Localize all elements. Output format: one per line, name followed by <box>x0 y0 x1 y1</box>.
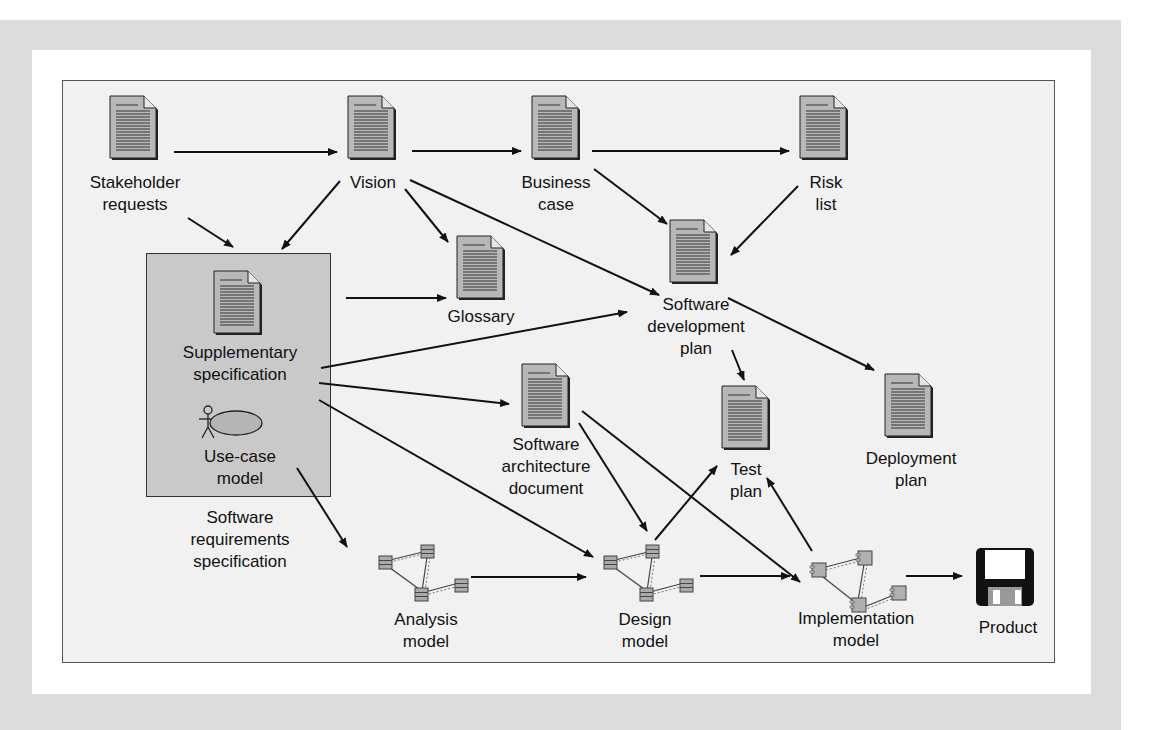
label-line: plan <box>866 470 957 492</box>
label-line: Software <box>190 507 289 529</box>
diagram-canvas <box>0 0 1150 730</box>
analysis-model-class-diagram-icon <box>379 545 468 601</box>
label-line: architecture <box>502 456 591 478</box>
software-architecture-document-label: Software architecture document <box>502 434 591 500</box>
implementation-model-label: Implementation model <box>798 608 914 652</box>
test-plan-label: Test plan <box>730 459 762 503</box>
label-line: Risk <box>809 172 842 194</box>
supplementary-specification-label: Supplementary specification <box>183 342 297 386</box>
floppy-disk-icon <box>976 548 1034 606</box>
label-line: Stakeholder <box>90 172 181 194</box>
use-case-model-label: Use-case model <box>204 446 276 490</box>
label-line: Vision <box>350 172 396 194</box>
software-requirements-specification-label: Software requirements specification <box>190 507 289 573</box>
design-model-label: Design model <box>619 609 672 653</box>
label-line: list <box>809 194 842 216</box>
business-case-label: Business case <box>522 172 591 216</box>
label-line: Use-case <box>204 446 276 468</box>
label-line: development <box>647 316 744 338</box>
implementation-model-component-diagram-icon <box>810 551 906 612</box>
label-line: model <box>204 468 276 490</box>
label-line: Deployment <box>866 448 957 470</box>
label-line: Analysis <box>394 609 457 631</box>
deployment-plan-label: Deployment plan <box>866 448 957 492</box>
label-line: model <box>394 631 457 653</box>
stakeholder-requests-label: Stakeholder requests <box>90 172 181 216</box>
software-architecture-document-icon <box>522 364 570 428</box>
label-line: Business <box>522 172 591 194</box>
label-line: plan <box>647 338 744 360</box>
label-line: Design <box>619 609 672 631</box>
label-line: specification <box>190 551 289 573</box>
software-development-plan-document-icon <box>670 220 718 284</box>
label-line: Supplementary <box>183 342 297 364</box>
risk-list-document-icon <box>800 96 848 160</box>
analysis-model-label: Analysis model <box>394 609 457 653</box>
label-line: Implementation <box>798 608 914 630</box>
label-line: Software <box>647 294 744 316</box>
label-line: model <box>798 630 914 652</box>
label-line: plan <box>730 481 762 503</box>
software-development-plan-label: Software development plan <box>647 294 744 360</box>
business-case-document-icon <box>532 96 580 160</box>
label-line: requirements <box>190 529 289 551</box>
supplementary-specification-document-icon <box>214 271 262 335</box>
test-plan-document-icon <box>722 386 770 450</box>
deployment-plan-document-icon <box>885 374 933 438</box>
label-line: specification <box>183 364 297 386</box>
label-line: model <box>619 631 672 653</box>
label-line: Product <box>979 617 1038 639</box>
stakeholder-requests-document-icon <box>110 96 158 160</box>
label-line: Glossary <box>447 306 514 328</box>
vision-label: Vision <box>350 172 396 194</box>
label-line: Software <box>502 434 591 456</box>
glossary-document-icon <box>457 236 505 300</box>
product-label: Product <box>979 617 1038 639</box>
label-line: case <box>522 194 591 216</box>
vision-document-icon <box>348 96 396 160</box>
use-case-icon <box>199 406 262 438</box>
glossary-label: Glossary <box>447 306 514 328</box>
label-line: requests <box>90 194 181 216</box>
label-line: Test <box>730 459 762 481</box>
label-line: document <box>502 478 591 500</box>
risk-list-label: Risk list <box>809 172 842 216</box>
design-model-class-diagram-icon <box>604 545 693 601</box>
